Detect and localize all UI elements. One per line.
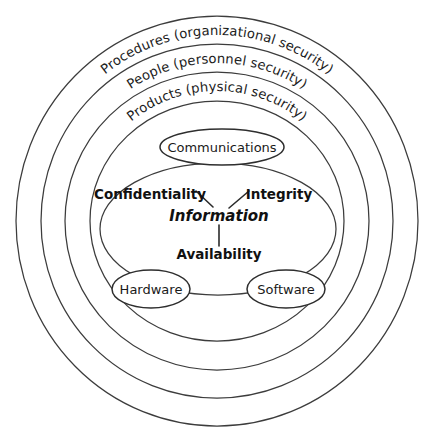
confidentiality-label: Confidentiality xyxy=(94,186,206,202)
hardware-label: Hardware xyxy=(120,282,183,297)
availability-label: Availability xyxy=(176,246,261,262)
information-label: Information xyxy=(169,207,269,225)
security-onion-diagram: Procedures (organizational security) Peo… xyxy=(0,0,433,442)
software-node-group: Software xyxy=(247,270,325,308)
communications-label: Communications xyxy=(167,140,276,155)
procedures-ring-label-textpath: Procedures (organizational security) xyxy=(98,23,337,77)
procedures-ring-label: Procedures (organizational security) xyxy=(98,23,337,77)
hardware-node-group: Hardware xyxy=(112,270,190,308)
communications-node-group: Communications xyxy=(160,129,284,165)
triad-labels-group: Confidentiality Integrity Availability I… xyxy=(94,186,312,262)
ring-labels-group: Procedures (organizational security) Peo… xyxy=(98,23,337,124)
software-label: Software xyxy=(257,282,314,297)
diagram-canvas: Procedures (organizational security) Peo… xyxy=(0,0,433,442)
integrity-label: Integrity xyxy=(246,186,313,202)
